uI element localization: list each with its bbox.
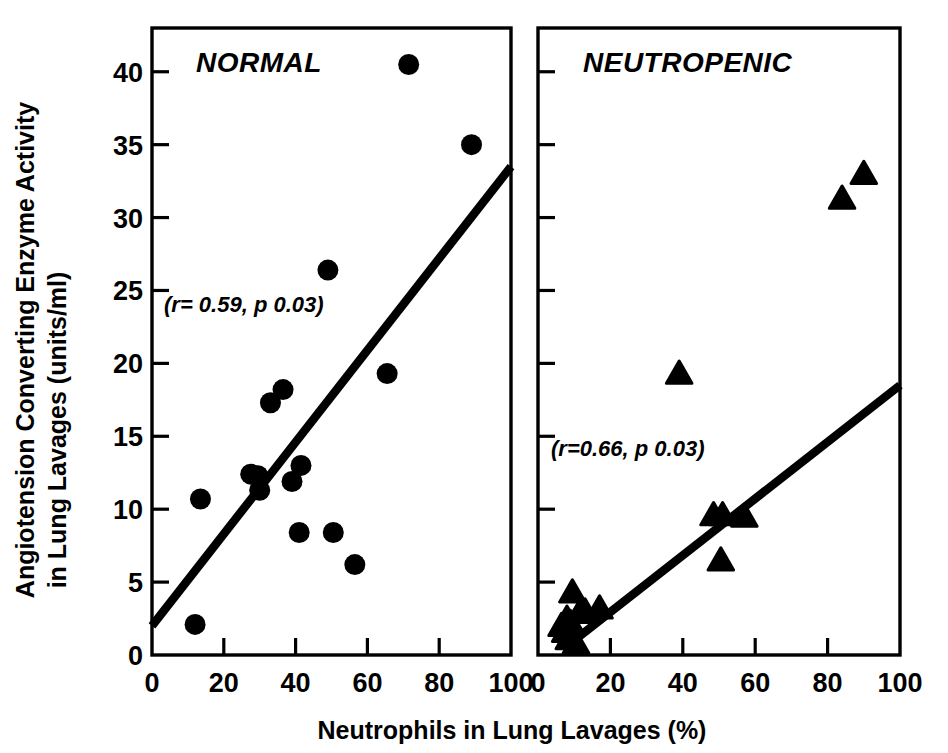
data-point [190, 488, 211, 509]
x-tick-labels-normal: 020406080100 [144, 668, 533, 698]
panel-normal-title: NORMAL [196, 47, 322, 78]
x-tick-label-20: 20 [209, 668, 239, 698]
scatter-plot-figure: Angiotension Converting Enzyme Activity … [0, 0, 948, 753]
y-tick-label-15: 15 [113, 422, 143, 452]
y-axis-label-line2: in Lung Lavages (units/ml) [43, 272, 71, 589]
panel-neutropenic-regression-line [574, 385, 900, 640]
data-point [185, 614, 206, 635]
y-tick-label-25: 25 [113, 276, 143, 306]
panel-normal-points [185, 54, 482, 635]
x-tick-label-60: 60 [740, 668, 770, 698]
figure-root: Angiotension Converting Enzyme Activity … [0, 0, 948, 753]
x-tick-label-40: 40 [668, 668, 698, 698]
panel-normal: NORMAL (r= 0.59, p 0.03) [152, 28, 511, 655]
data-point [317, 260, 338, 281]
data-point [461, 134, 482, 155]
y-tick-label-20: 20 [113, 349, 143, 379]
regression-line [152, 167, 511, 626]
data-point [851, 161, 877, 183]
y-tick-label-40: 40 [113, 58, 143, 88]
y-tick-labels: 0510152025303540 [113, 58, 143, 671]
panel-neutropenic-x-ticks [610, 638, 827, 655]
panel-neutropenic-title: NEUTROPENIC [583, 47, 793, 78]
y-axis-label: Angiotension Converting Enzyme Activity … [11, 102, 71, 598]
data-point [289, 522, 310, 543]
panel-normal-y-ticks [152, 72, 169, 582]
data-point [666, 361, 692, 383]
data-point [398, 54, 419, 75]
data-point [560, 580, 586, 602]
x-tick-label-60: 60 [352, 668, 382, 698]
data-point [273, 379, 294, 400]
x-tick-label-0: 0 [530, 668, 545, 698]
x-tick-label-20: 20 [595, 668, 625, 698]
data-point [708, 548, 734, 570]
y-tick-label-5: 5 [128, 568, 143, 598]
panel-normal-regression-line [152, 167, 511, 626]
data-point [290, 455, 311, 476]
data-point [829, 186, 855, 208]
y-tick-label-10: 10 [113, 495, 143, 525]
x-tick-label-100: 100 [488, 668, 533, 698]
x-tick-label-100: 100 [877, 668, 922, 698]
data-point [377, 363, 398, 384]
panel-neutropenic: NEUTROPENIC (r=0.66, p 0.03) [538, 28, 900, 655]
x-tick-labels-neutropenic: 020406080100 [530, 668, 922, 698]
y-tick-label-35: 35 [113, 131, 143, 161]
x-tick-label-80: 80 [424, 668, 454, 698]
x-axis-label: Neutrophils in Lung Lavages (%) [318, 716, 707, 744]
panel-neutropenic-annotation: (r=0.66, p 0.03) [551, 436, 704, 461]
data-point [323, 522, 344, 543]
x-tick-label-80: 80 [813, 668, 843, 698]
panel-normal-annotation: (r= 0.59, p 0.03) [164, 292, 324, 317]
data-point [344, 554, 365, 575]
x-tick-label-0: 0 [144, 668, 159, 698]
y-axis-label-line1: Angiotension Converting Enzyme Activity [11, 102, 39, 598]
panel-neutropenic-y-ticks [538, 72, 555, 582]
panel-normal-x-ticks [224, 638, 439, 655]
data-point [249, 480, 270, 501]
y-tick-label-0: 0 [128, 641, 143, 671]
panel-neutropenic-points [549, 161, 877, 653]
x-tick-label-40: 40 [281, 668, 311, 698]
regression-line [574, 385, 900, 640]
y-tick-label-30: 30 [113, 204, 143, 234]
